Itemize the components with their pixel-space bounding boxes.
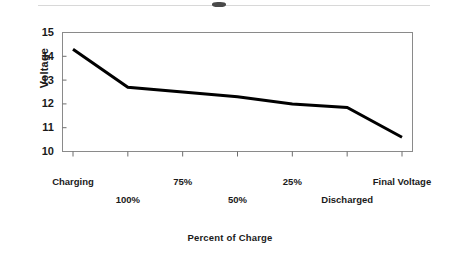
- y-tick-label: 12: [32, 98, 54, 109]
- x-tick-label: Discharged: [321, 194, 373, 205]
- y-tick-label: 13: [32, 75, 54, 86]
- x-tick-label: 50%: [228, 194, 247, 205]
- x-tick-label: Charging: [52, 176, 94, 187]
- chart-figure: Voltage 151413121110 Charging100%75%50%2…: [0, 0, 460, 255]
- x-tick-label: 25%: [283, 176, 302, 187]
- x-axis-title: Percent of Charge: [0, 232, 460, 243]
- y-axis-title: Voltage: [38, 38, 50, 98]
- plot-area-border: [63, 33, 413, 152]
- y-tick-label: 11: [32, 122, 54, 133]
- x-tick-label: 75%: [173, 176, 192, 187]
- x-tick-label: 100%: [116, 194, 140, 205]
- y-tick-label: 10: [32, 146, 54, 157]
- x-axis-ticks: [73, 152, 402, 157]
- y-tick-label: 15: [32, 27, 54, 38]
- y-tick-label: 14: [32, 51, 54, 62]
- voltage-line-chart: [0, 0, 460, 255]
- x-tick-label: Final Voltage: [373, 176, 431, 187]
